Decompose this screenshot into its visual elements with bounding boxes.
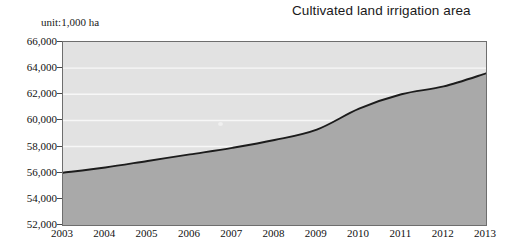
x-axis-tick-label: 2013: [474, 227, 496, 239]
x-axis: 2003200420052006200720082009201020112012…: [0, 0, 516, 247]
x-axis-tick-label: 2010: [347, 227, 369, 239]
x-axis-tick-label: 2003: [51, 227, 73, 239]
x-axis-tick-label: 2006: [178, 227, 200, 239]
x-axis-tick-label: 2012: [432, 227, 454, 239]
chart-screenshot: Cultivated land irrigation area unit:1,0…: [0, 0, 516, 247]
x-axis-tick-label: 2009: [305, 227, 327, 239]
x-axis-tick-label: 2008: [263, 227, 285, 239]
x-axis-tick-label: 2005: [136, 227, 158, 239]
x-axis-tick-label: 2004: [93, 227, 115, 239]
x-axis-tick-label: 2007: [220, 227, 242, 239]
x-axis-tick-label: 2011: [390, 227, 412, 239]
